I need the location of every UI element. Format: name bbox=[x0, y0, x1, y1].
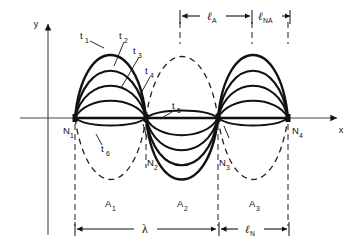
t6-label: t6 bbox=[101, 143, 110, 157]
leader-t1 bbox=[90, 41, 104, 48]
svg-text:3: 3 bbox=[138, 52, 142, 59]
svg-text:1: 1 bbox=[85, 37, 89, 44]
svg-text:A: A bbox=[249, 198, 256, 209]
svg-text:t: t bbox=[172, 100, 175, 111]
t1-label: t1 bbox=[80, 30, 89, 44]
N4-label: N4 bbox=[292, 125, 303, 139]
svg-text:3: 3 bbox=[256, 205, 260, 212]
tick-N3 bbox=[224, 126, 229, 138]
node-marker-N3 bbox=[216, 114, 221, 122]
svg-text:2: 2 bbox=[154, 164, 158, 171]
t4-label: t4 bbox=[145, 65, 154, 79]
svg-text:2: 2 bbox=[124, 37, 128, 44]
x-axis-label: x bbox=[339, 125, 344, 135]
ellNA-label-group: ℓ NA bbox=[258, 10, 273, 24]
t3-label: t3 bbox=[133, 45, 142, 59]
dimension-lambda: λ bbox=[75, 222, 216, 236]
lambda-label: λ bbox=[142, 222, 148, 236]
svg-text:2: 2 bbox=[184, 205, 188, 212]
svg-text:5: 5 bbox=[177, 107, 181, 114]
arch-t3-seg1 bbox=[75, 86, 146, 118]
A2-label: A2 bbox=[177, 198, 188, 212]
vertical-guides bbox=[75, 22, 288, 226]
standing-wave-figure: y x bbox=[0, 0, 357, 248]
dimension-ell-A: ℓ A bbox=[180, 10, 252, 24]
svg-text:t: t bbox=[101, 143, 104, 154]
dashed-lobe-middle-up bbox=[146, 57, 218, 119]
N3-label: N3 bbox=[219, 157, 230, 171]
svg-text:A: A bbox=[177, 198, 184, 209]
leader-t4 bbox=[140, 77, 150, 95]
A1-label: A1 bbox=[105, 198, 116, 212]
ellN-sub: N bbox=[250, 230, 255, 237]
svg-text:6: 6 bbox=[106, 150, 110, 157]
diagram-canvas: y x bbox=[0, 0, 357, 248]
dashed-lobe-A1 bbox=[75, 118, 146, 180]
arch-t3-seg3 bbox=[218, 86, 288, 118]
arch-t4-seg2 bbox=[146, 118, 218, 135]
arch-t4-seg3 bbox=[218, 101, 288, 118]
dimension-ell-N: ℓ N bbox=[219, 222, 289, 237]
ellN-label-group: ℓ N bbox=[245, 223, 255, 237]
svg-text:t: t bbox=[80, 30, 83, 41]
svg-text:1: 1 bbox=[70, 132, 74, 139]
svg-text:4: 4 bbox=[150, 72, 154, 79]
svg-text:3: 3 bbox=[226, 164, 230, 171]
node-marker-N2 bbox=[144, 114, 149, 122]
dimension-ell-NA: ℓ NA bbox=[258, 10, 290, 24]
node-text-labels: N1 N2 N3 N4 bbox=[63, 125, 303, 171]
svg-text:4: 4 bbox=[299, 132, 303, 139]
svg-text:t: t bbox=[119, 30, 122, 41]
N1-label: N1 bbox=[63, 125, 74, 139]
svg-text:N: N bbox=[63, 125, 70, 136]
solid-arches-segment-3 bbox=[218, 55, 288, 126]
antinode-text-labels: A1 A2 A3 bbox=[105, 198, 260, 212]
leader-t2 bbox=[114, 42, 124, 66]
ellA-label-group: ℓ A bbox=[207, 10, 217, 24]
A3-label: A3 bbox=[249, 198, 260, 212]
ellNA-sub: NA bbox=[263, 17, 273, 24]
t5-label: t5 bbox=[172, 100, 181, 114]
node-marker-N4 bbox=[286, 114, 291, 122]
arch-t3-seg2 bbox=[146, 118, 218, 150]
leader-t3 bbox=[121, 57, 139, 88]
arch-t4-seg1 bbox=[75, 101, 146, 118]
svg-text:t: t bbox=[145, 65, 148, 76]
solid-arches-segment-1 bbox=[75, 55, 146, 126]
y-axis-label: y bbox=[34, 19, 39, 29]
svg-text:N: N bbox=[292, 125, 299, 136]
node-marker-N1 bbox=[73, 114, 78, 122]
ellA-sub: A bbox=[212, 17, 217, 24]
svg-text:1: 1 bbox=[112, 205, 116, 212]
svg-text:t: t bbox=[133, 45, 136, 56]
svg-text:N: N bbox=[147, 157, 154, 168]
svg-text:A: A bbox=[105, 198, 112, 209]
svg-text:N: N bbox=[219, 157, 226, 168]
t2-label: t2 bbox=[119, 30, 128, 44]
